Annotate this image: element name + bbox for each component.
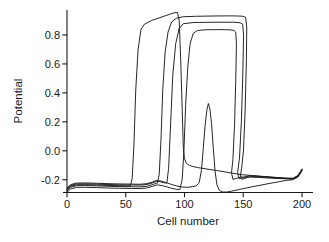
x-tick-label: 200 [293, 198, 311, 210]
x-tick-label: 100 [175, 198, 193, 210]
x-tick-label: 150 [234, 198, 252, 210]
y-tick-label: 0.4 [45, 87, 60, 99]
axes [62, 10, 313, 197]
x-tick-label: 0 [64, 198, 70, 210]
x-axis-label: Cell number [157, 215, 219, 227]
series-line-pulse-3-mid-plateau [67, 22, 302, 189]
chart-figure: 050100150200-0.20.00.20.40.60.8 Cell num… [0, 0, 329, 242]
series-line-pulse-4-low-plateau [67, 30, 302, 193]
tick-labels: 050100150200-0.20.00.20.40.60.8 [41, 29, 311, 210]
y-tick-label: 0.8 [45, 29, 60, 41]
y-tick-label: 0.0 [45, 145, 60, 157]
series-lines [67, 13, 302, 193]
chart-canvas: 050100150200-0.20.00.20.40.60.8 Cell num… [0, 0, 329, 242]
y-axis-label: Potential [12, 79, 24, 124]
y-tick-label: 0.6 [45, 58, 60, 70]
x-tick-label: 50 [120, 198, 132, 210]
y-tick-label: -0.2 [41, 174, 60, 186]
y-tick-label: 0.2 [45, 116, 60, 128]
series-line-pulse-1-wide-plateau [67, 13, 302, 190]
series-line-pulse-2-top-plateau [67, 16, 302, 191]
